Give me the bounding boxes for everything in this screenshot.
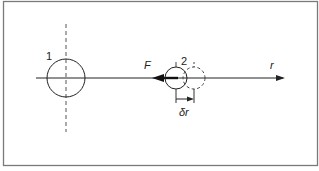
r-axis-arrowhead-icon	[276, 75, 285, 81]
particle1-label: 1	[46, 50, 52, 62]
particle2-label: 2	[181, 55, 187, 67]
force-arrowhead-icon	[152, 74, 164, 82]
displacement-label: δr	[179, 106, 190, 118]
displacement-arrowhead-icon	[187, 97, 194, 102]
r-axis-label: r	[270, 59, 275, 71]
diagram-frame	[4, 2, 318, 166]
force-label: F	[144, 59, 152, 71]
diagram-canvas: 1 2 F r δr	[0, 0, 319, 171]
